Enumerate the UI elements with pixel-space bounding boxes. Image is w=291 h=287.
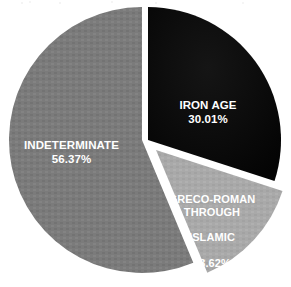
pie-chart-figure: IRON AGE 30.01% INDETERMINATE 56.37% GRE…: [0, 0, 291, 287]
pie-chart-svg: [0, 0, 291, 287]
